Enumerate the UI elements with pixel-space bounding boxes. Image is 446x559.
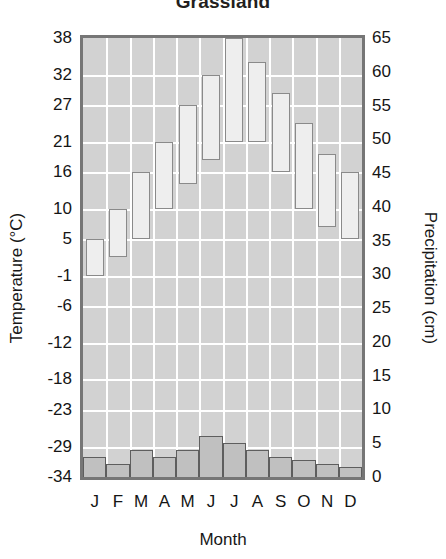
x-axis-tick-label: M <box>176 492 200 512</box>
temperature-range-bar <box>248 62 266 141</box>
temperature-range-bar <box>318 154 336 227</box>
plot-area <box>80 35 365 480</box>
temperature-range-bar <box>86 239 104 276</box>
precipitation-bar <box>292 460 315 477</box>
temperature-range-bar <box>341 172 359 239</box>
temperature-range-bar <box>272 93 290 172</box>
y-axis-left-tick-label: 32 <box>12 66 72 83</box>
y-axis-right-tick-label: 25 <box>372 299 432 316</box>
gridline-vertical <box>130 38 132 477</box>
temperature-range-bar <box>155 142 173 209</box>
y-axis-left-tick-label: 16 <box>12 163 72 180</box>
gridline-vertical <box>292 38 294 477</box>
y-axis-left-tick-label: -34 <box>12 468 72 485</box>
precipitation-bar <box>316 464 339 478</box>
temperature-range-bar <box>225 38 243 142</box>
temperature-range-bar <box>132 172 150 239</box>
y-axis-right-tick-label: 15 <box>372 367 432 384</box>
x-axis-tick-label: J <box>222 492 246 512</box>
temperature-range-bar <box>109 209 127 258</box>
x-axis-tick-label: J <box>199 492 223 512</box>
temperature-range-bar <box>202 75 220 160</box>
y-axis-right-tick-label: 45 <box>372 164 432 181</box>
temperature-range-bar <box>179 105 197 184</box>
precipitation-bar <box>199 436 222 477</box>
y-axis-left-tick-label: 38 <box>12 29 72 46</box>
x-axis-tick-label: M <box>129 492 153 512</box>
precipitation-bar <box>223 443 246 477</box>
y-axis-right-tick-label: 40 <box>372 198 432 215</box>
gridline-vertical <box>106 38 108 477</box>
y-axis-right-tick-label: 10 <box>372 400 432 417</box>
gridline-vertical <box>316 38 318 477</box>
gridline-vertical <box>153 38 155 477</box>
y-axis-right-tick-label: 60 <box>372 63 432 80</box>
y-axis-left-tick-label: -18 <box>12 370 72 387</box>
y-axis-left-tick-label: -12 <box>12 334 72 351</box>
gridline-vertical <box>176 38 178 477</box>
x-axis-tick-label: N <box>315 492 339 512</box>
y-axis-left-tick-label: -23 <box>12 401 72 418</box>
precipitation-bar <box>106 464 129 478</box>
precipitation-bar <box>83 457 106 477</box>
y-axis-right-tick-label: 55 <box>372 97 432 114</box>
precipitation-bar <box>130 450 153 477</box>
y-axis-right-tick-label: 50 <box>372 130 432 147</box>
y-axis-right-tick-label: 65 <box>372 29 432 46</box>
y-axis-left-tick-label: 5 <box>12 230 72 247</box>
precipitation-bar <box>269 457 292 477</box>
x-axis-tick-label: S <box>269 492 293 512</box>
y-axis-left-tick-label: 21 <box>12 133 72 150</box>
y-axis-left-tick-label: -1 <box>12 267 72 284</box>
page-title: Grassland <box>0 0 446 13</box>
x-axis-tick-label: A <box>152 492 176 512</box>
gridline-vertical <box>339 38 341 477</box>
x-axis-title: Month <box>0 530 446 550</box>
y-axis-right-tick-label: 35 <box>372 232 432 249</box>
temperature-range-bar <box>295 123 313 208</box>
y-axis-right-tick-label: 0 <box>372 468 432 485</box>
y-axis-right-tick-label: 20 <box>372 333 432 350</box>
precipitation-bar <box>246 450 269 477</box>
y-axis-left-tick-label: -6 <box>12 297 72 314</box>
x-axis-tick-label: D <box>338 492 362 512</box>
y-axis-left-tick-label: 27 <box>12 96 72 113</box>
x-axis-tick-label: A <box>245 492 269 512</box>
x-axis-tick-label: F <box>106 492 130 512</box>
precipitation-bar <box>176 450 199 477</box>
precipitation-bar <box>153 457 176 477</box>
y-axis-left-tick-label: 10 <box>12 200 72 217</box>
precipitation-bar <box>339 467 362 477</box>
x-axis-tick-label: J <box>83 492 107 512</box>
y-axis-right-tick-label: 30 <box>372 265 432 282</box>
y-axis-right-tick-label: 5 <box>372 434 432 451</box>
y-axis-left-tick-label: -29 <box>12 438 72 455</box>
x-axis-tick-label: O <box>292 492 316 512</box>
